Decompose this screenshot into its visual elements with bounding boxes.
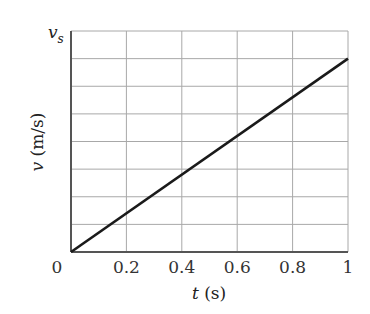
x-tick-label: 1 bbox=[343, 257, 354, 277]
x-tick-label: 0 bbox=[52, 257, 63, 277]
y-top-label: vs bbox=[48, 22, 64, 46]
data-line bbox=[71, 59, 348, 252]
x-tick-labels: 00.20.40.60.81 bbox=[52, 257, 354, 277]
x-tick-label: 0.6 bbox=[224, 257, 251, 277]
y-axis-label: v (m/s) bbox=[27, 113, 47, 172]
x-tick-label: 0.4 bbox=[168, 257, 195, 277]
x-tick-label: 0.8 bbox=[279, 257, 306, 277]
series-line bbox=[71, 59, 348, 252]
x-tick-label: 0.2 bbox=[113, 257, 140, 277]
grid bbox=[71, 31, 348, 252]
velocity-time-chart: 00.20.40.60.81 vs v (m/s) t (s) bbox=[0, 0, 370, 314]
x-axis-label: t (s) bbox=[192, 283, 226, 303]
